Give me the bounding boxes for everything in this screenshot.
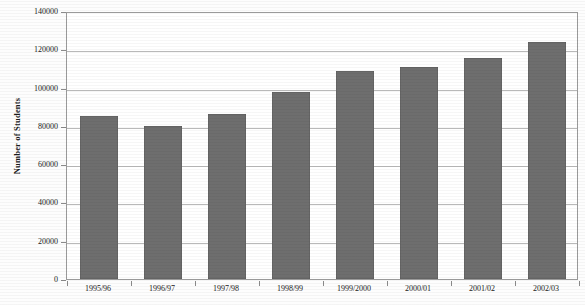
y-axis-tick-label: 40000	[2, 199, 58, 207]
bar	[464, 58, 502, 279]
y-axis-tick-label: 100000	[2, 85, 58, 93]
x-axis-tick-label: 1998/99	[253, 284, 327, 293]
y-axis-tick-mark	[61, 280, 66, 281]
x-axis-tick-label: 1996/97	[125, 284, 199, 293]
bar	[80, 116, 118, 279]
x-axis-tick-label: 1997/98	[189, 284, 263, 293]
y-axis-tick-label: 20000	[2, 238, 58, 246]
bar-chart-figure: Number of Students 020000400006000080000…	[0, 0, 585, 305]
bar	[208, 114, 246, 279]
y-axis-tick-label: 80000	[2, 123, 58, 131]
x-axis-tick-label: 2000/01	[381, 284, 455, 293]
bar	[144, 126, 182, 279]
x-axis-tick-label: 1995/96	[61, 284, 135, 293]
y-axis-tick-label: 60000	[2, 161, 58, 169]
bar	[336, 71, 374, 279]
x-axis-tick-label: 1999/2000	[317, 284, 391, 293]
bar	[272, 92, 310, 279]
x-axis-tick-label: 2001/02	[445, 284, 519, 293]
y-axis-tick-label: 140000	[2, 8, 58, 16]
y-axis-tick-label: 0	[2, 276, 58, 284]
x-axis-tick-label: 2002/03	[509, 284, 583, 293]
plot-area	[66, 12, 578, 280]
y-axis-tick-label: 120000	[2, 46, 58, 54]
bar	[400, 67, 438, 279]
y-axis-title: Number of Students	[10, 0, 24, 276]
bar	[528, 42, 566, 279]
gridline	[67, 51, 577, 52]
